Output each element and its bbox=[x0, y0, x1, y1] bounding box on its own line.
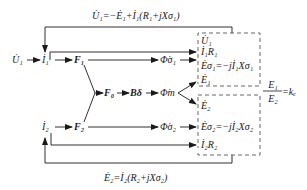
phim-to-e1-arrow bbox=[178, 82, 196, 93]
lower-box-e2: Ė₂ bbox=[201, 100, 211, 111]
phi-sigma1-label: Φ̇σ₁ bbox=[160, 54, 176, 65]
i2-label: İ₂ bbox=[42, 121, 49, 132]
phim-to-e2-arrow bbox=[178, 93, 196, 104]
f2-label: F₂ bbox=[74, 121, 84, 132]
upper-box-es1: Ėσ₁=−jİ₁Xσ₁ bbox=[201, 60, 253, 71]
i1-label: İ₁ bbox=[42, 54, 49, 65]
ratio-denominator: E₂ bbox=[264, 93, 282, 104]
i2r2-arrow bbox=[51, 133, 196, 145]
phi-m-label: Φ̇m bbox=[160, 87, 175, 98]
u1-input-label: U̇₁ bbox=[12, 54, 23, 65]
lower-box-i2r2: İ₂R₂ bbox=[201, 139, 217, 150]
bottom-equation: Ė₂=İ₂(R₂+jXσ₂) bbox=[104, 172, 167, 183]
f1-merge-line bbox=[84, 65, 95, 93]
upper-box-e1: Ė₁ bbox=[201, 74, 211, 85]
ratio-rhs: =kₑ bbox=[282, 86, 296, 97]
diagram-connectors bbox=[0, 0, 307, 190]
phi-sigma2-label: Φ̇σ₂ bbox=[160, 121, 176, 132]
transformer-flow-diagram: U̇₁=−Ė₁+İ₁(R₁+jXσ₁) U̇₁ İ₁ F₁ Φ̇σ₁ F₀ Bδ… bbox=[0, 0, 307, 190]
top-equation: U̇₁=−Ė₁+İ₁(R₁+jXσ₁) bbox=[92, 10, 180, 21]
upper-box-u1: U̇₁ bbox=[201, 35, 212, 46]
f1-label: F₁ bbox=[74, 54, 84, 65]
f0-label: F₀ bbox=[104, 87, 114, 98]
b-delta-label: Bδ bbox=[130, 87, 142, 98]
upper-box-i1r1: İ₁R₁ bbox=[201, 46, 217, 57]
f2-merge-line bbox=[84, 93, 95, 122]
ratio-numerator: E₁ bbox=[264, 79, 282, 90]
lower-box-es2: Ėσ₂=−jİ₂Xσ₂ bbox=[201, 121, 253, 132]
